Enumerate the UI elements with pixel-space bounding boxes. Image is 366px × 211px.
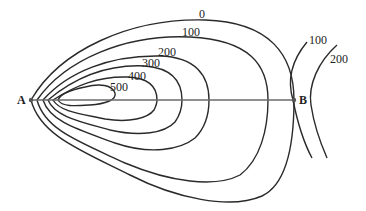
contour-label-200: 200 — [158, 45, 176, 59]
point-a-marker — [29, 98, 33, 102]
contour-label-500: 500 — [110, 80, 128, 94]
right-contour-label-200: 200 — [330, 52, 348, 66]
contour-label-400: 400 — [128, 69, 146, 83]
contour-label-100: 100 — [182, 25, 200, 39]
point-b-label: B — [299, 93, 307, 107]
right-contour-label-100: 100 — [309, 33, 327, 47]
contour-diagram: A B 0 100 200 300 400 500 100 200 — [0, 0, 366, 211]
point-b-marker — [292, 98, 296, 102]
contour-label-300: 300 — [142, 56, 160, 70]
contour-label-0: 0 — [199, 7, 205, 21]
contour-500 — [58, 85, 115, 106]
contour-400 — [53, 77, 157, 120]
point-a-label: A — [17, 93, 26, 107]
